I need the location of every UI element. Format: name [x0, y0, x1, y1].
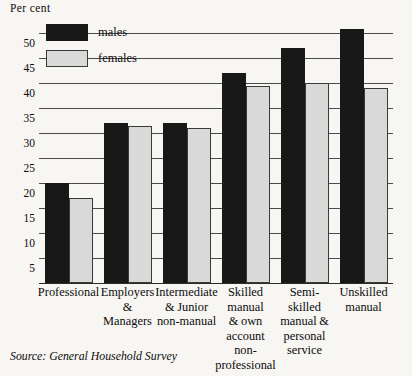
- bar-males: [104, 123, 128, 283]
- y-tick-label: 20: [1, 187, 35, 199]
- bar-females: [128, 126, 152, 283]
- legend-label-males: males: [98, 25, 127, 40]
- category-label-line: Employers: [101, 285, 155, 299]
- y-tick-label: 25: [1, 162, 35, 174]
- bar-males: [163, 123, 187, 283]
- chart-figure: Per cent 5101520253035404550 malesfemale…: [0, 0, 412, 376]
- bar-females: [69, 198, 93, 283]
- category-label-line: & Junior: [165, 300, 208, 314]
- category-label-line: &: [123, 300, 133, 314]
- bar-males: [222, 73, 246, 283]
- category-label-line: non-manual: [157, 314, 216, 328]
- y-tick-label: 35: [1, 112, 35, 124]
- category-label: Unskilledmanual: [329, 285, 398, 314]
- category-label-line: Semi-: [290, 285, 320, 299]
- y-tick-label: 10: [1, 237, 35, 249]
- legend-label-females: females: [98, 51, 137, 66]
- bar-females: [246, 86, 270, 283]
- y-tick-label: 5: [1, 262, 35, 274]
- category-label-line: manual: [227, 300, 263, 314]
- category-label-line: account: [226, 329, 265, 343]
- bar-males: [281, 48, 305, 283]
- y-axis-title: Per cent: [10, 2, 51, 14]
- category-label-line: Intermediate: [155, 285, 218, 299]
- category-label-line: & own: [229, 314, 263, 328]
- category-label-line: non-: [234, 343, 257, 357]
- plot-area: [39, 21, 393, 283]
- y-tick-label: 15: [1, 212, 35, 224]
- category-label-line: manual &: [280, 314, 329, 328]
- category-label-line: Professional: [38, 285, 99, 299]
- bar-males: [340, 29, 364, 284]
- category-label-line: Unskilled: [339, 285, 387, 299]
- category-label-line: professional: [215, 358, 276, 372]
- legend-swatch-females: [46, 50, 88, 67]
- category-label-line: Skilled: [228, 285, 263, 299]
- y-tick-label: 50: [1, 37, 35, 49]
- category-label-line: personal: [284, 329, 326, 343]
- y-axis-tick-labels: 5101520253035404550: [0, 21, 35, 283]
- source-note: Source: General Household Survey: [10, 349, 177, 364]
- category-label-line: service: [287, 343, 322, 357]
- x-axis-baseline: [39, 283, 393, 284]
- bar-females: [305, 83, 329, 283]
- category-label-line: skilled: [288, 300, 321, 314]
- y-tick-label: 40: [1, 87, 35, 99]
- bar-females: [364, 88, 388, 283]
- y-tick-label: 45: [1, 62, 35, 74]
- bar-males: [45, 183, 69, 283]
- y-tick-label: 30: [1, 137, 35, 149]
- legend-swatch-males: [46, 24, 88, 41]
- category-label-line: manual: [345, 300, 381, 314]
- bar-females: [187, 128, 211, 283]
- category-label-line: Managers: [103, 314, 152, 328]
